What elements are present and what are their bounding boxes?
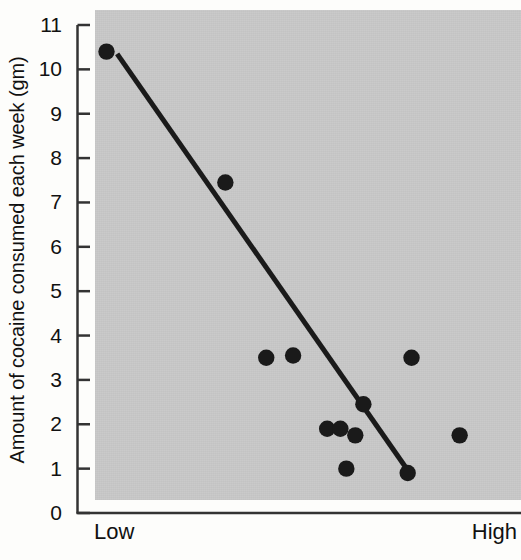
- y-tick-label-9: 9: [28, 103, 62, 124]
- figure-container: Amount of cocaine consumed each week (gm…: [0, 0, 521, 560]
- y-tick-label-11: 11: [28, 14, 62, 35]
- x-axis-low-label: Low: [94, 521, 134, 543]
- data-point: [338, 460, 354, 476]
- y-tick-label-10: 10: [28, 58, 62, 79]
- y-tick-label-7: 7: [28, 191, 62, 212]
- y-tick-label-8: 8: [28, 147, 62, 168]
- y-axis-ticks: [78, 25, 91, 513]
- data-point: [355, 396, 371, 412]
- trend-line: [117, 54, 413, 478]
- data-point: [285, 347, 301, 363]
- x-axis-high-label: High: [472, 521, 517, 543]
- y-tick-label-2: 2: [28, 413, 62, 434]
- data-point: [403, 350, 419, 366]
- data-point: [347, 427, 363, 443]
- y-tick-label-0: 0: [28, 502, 62, 523]
- chart-canvas: [0, 0, 521, 560]
- data-point: [98, 43, 114, 59]
- y-tick-label-5: 5: [28, 280, 62, 301]
- y-tick-label-4: 4: [28, 325, 62, 346]
- data-point: [399, 465, 415, 481]
- y-tick-label-1: 1: [28, 458, 62, 479]
- y-tick-label-3: 3: [28, 369, 62, 390]
- data-point: [258, 350, 274, 366]
- y-tick-label-6: 6: [28, 236, 62, 257]
- regression-line: [117, 54, 413, 478]
- data-point: [332, 421, 348, 437]
- data-point: [217, 174, 233, 190]
- data-point: [451, 427, 467, 443]
